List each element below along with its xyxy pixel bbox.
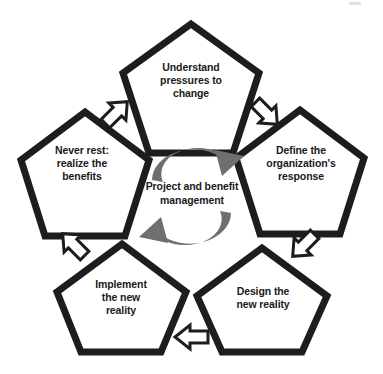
scan-artifact <box>349 2 361 5</box>
pentagon-define[interactable] <box>236 110 364 234</box>
pentagon-understand[interactable] <box>123 24 259 153</box>
cycle-diagram: Understand pressures to change Define th… <box>0 0 383 374</box>
pentagon-design[interactable] <box>197 248 327 352</box>
connector-arrow-design-to-implement <box>175 325 208 349</box>
pentagon-implement[interactable] <box>57 244 186 352</box>
center-label-project-benefit-management: Project and benefit management <box>122 180 262 207</box>
pentagon-never-rest[interactable] <box>21 112 149 236</box>
clockwise-arrow-bottom-icon <box>139 211 231 245</box>
